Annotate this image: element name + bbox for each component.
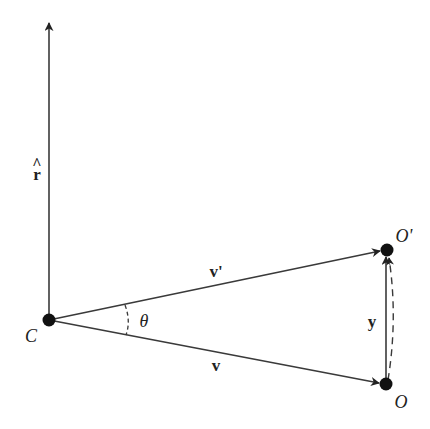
point-O [380,378,393,391]
dashed-arc-arrow [388,258,393,380]
point-O-prime [381,244,394,257]
point-C [43,314,56,327]
theta-angle-arc [125,305,128,335]
theta-label: θ [140,311,149,331]
v-prime-label: v' [209,262,222,281]
r-hat-label: r [33,165,41,184]
point-O-prime-label: O' [396,226,414,246]
v-label: v [212,356,221,375]
vector-diagram: ^ r v' v y θ C O' O [0,0,430,429]
point-O-label: O [395,392,408,412]
y-label: y [368,312,377,331]
point-C-label: C [25,326,38,346]
